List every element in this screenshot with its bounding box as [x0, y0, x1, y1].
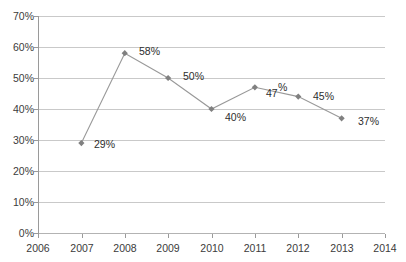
- y-tick-70: [34, 16, 39, 17]
- y-tick-30: [34, 140, 39, 141]
- x-axis-label-2010: 2010: [192, 243, 232, 254]
- x-tick-2009: [168, 234, 169, 238]
- data-label-2011-number: 47: [266, 88, 278, 99]
- data-label-2007: 29%: [94, 139, 115, 150]
- y-axis-label-70: 70%: [0, 11, 34, 21]
- x-tick-2011: [255, 234, 256, 238]
- y-tick-60: [34, 47, 39, 48]
- y-tick-50: [34, 78, 39, 79]
- x-tick-2014: [385, 234, 386, 238]
- y-tick-40: [34, 109, 39, 110]
- y-axis-label-0: 0%: [0, 228, 34, 238]
- x-tick-2012: [298, 234, 299, 238]
- y-tick-20: [34, 171, 39, 172]
- series-line-group: [0, 0, 406, 262]
- x-tick-2010: [212, 234, 213, 238]
- x-axis-label-2006: 2006: [18, 243, 58, 254]
- data-label-2012: 45%: [313, 91, 334, 102]
- x-axis-label-2013: 2013: [322, 243, 362, 254]
- data-point-2013: [339, 115, 345, 121]
- gridline-30: [38, 140, 385, 141]
- gridline-70: [38, 16, 385, 17]
- y-axis-label-50: 50%: [0, 73, 34, 83]
- gridline-60: [38, 47, 385, 48]
- x-tick-2008: [125, 234, 126, 238]
- y-axis-label-60: 60%: [0, 42, 34, 52]
- x-tick-2013: [342, 234, 343, 238]
- series-polyline: [81, 53, 341, 143]
- data-label-2009: 50%: [183, 71, 204, 82]
- data-label-2008: 58%: [139, 46, 160, 57]
- gridline-40: [38, 109, 385, 110]
- gridline-50: [38, 78, 385, 79]
- x-tick-2007: [82, 234, 83, 238]
- y-axis-label-20: 20%: [0, 166, 34, 176]
- y-axis-label-30: 30%: [0, 135, 34, 145]
- series-markers: [78, 50, 344, 146]
- data-label-2011-percent-sign: %: [278, 82, 287, 93]
- y-axis-label-10: 10%: [0, 197, 34, 207]
- x-axis-label-2007: 2007: [62, 243, 102, 254]
- y-axis-label-40: 40%: [0, 104, 34, 114]
- x-axis-label-2014: 2014: [365, 243, 405, 254]
- x-axis-label-2009: 2009: [148, 243, 188, 254]
- y-tick-10: [34, 202, 39, 203]
- line-chart: 70% 60% 50% 40% 30% 20% 10% 0% 2006 2007…: [0, 0, 406, 262]
- data-label-2013: 37%: [358, 116, 379, 127]
- x-axis-label-2008: 2008: [105, 243, 145, 254]
- data-label-2010: 40%: [225, 112, 246, 123]
- data-point-2008: [122, 50, 128, 56]
- data-point-2011: [252, 84, 258, 90]
- gridline-10: [38, 202, 385, 203]
- x-tick-2006: [38, 234, 39, 238]
- x-axis-label-2011: 2011: [235, 243, 275, 254]
- gridline-20: [38, 171, 385, 172]
- data-point-2012: [295, 94, 301, 100]
- x-axis-label-2012: 2012: [278, 243, 318, 254]
